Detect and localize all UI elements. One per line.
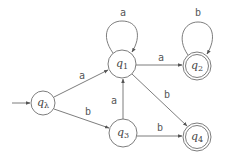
state-q-lambda: qλ: [31, 91, 55, 115]
edge-label-q3-q1: a: [111, 95, 117, 106]
state-q4: q4: [183, 123, 211, 151]
edge-label-qlambda-q1: a: [79, 70, 85, 81]
edge-q2-loop: [182, 22, 212, 55]
edge-label-qlambda-q3: b: [85, 106, 91, 117]
edge-qlambda-q3: [54, 109, 109, 128]
edge-label-q1-q2: a: [158, 52, 164, 63]
state-q3: q3: [109, 119, 137, 147]
edge-label-q2-loop: b: [195, 7, 201, 18]
state-q1: q1: [108, 50, 136, 78]
state-q2: q2: [183, 52, 211, 80]
automaton-diagram: a b a a b b a b qλ q1 q2 q3 q4: [0, 0, 225, 160]
edge-label-q1-loop: a: [120, 7, 126, 18]
edge-label-q1-q4: b: [164, 89, 170, 100]
edge-q1-loop: [106, 21, 137, 53]
edge-q1-q4: [132, 74, 187, 126]
edge-label-q3-q4: b: [157, 122, 163, 133]
